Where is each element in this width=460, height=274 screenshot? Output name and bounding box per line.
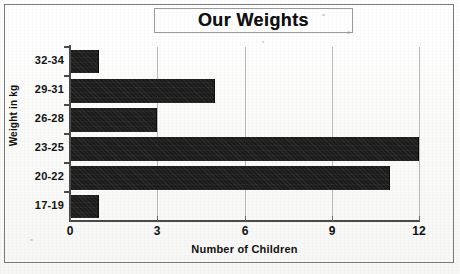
plot-area: [70, 47, 419, 220]
chart-title-box: Our Weights: [154, 8, 353, 33]
chart-title: Our Weights: [198, 10, 309, 31]
y-tick-23-25: [64, 162, 70, 164]
gridline-9: [332, 47, 333, 220]
y-label-26-28: 26-28: [35, 112, 64, 124]
bar-17-19: [70, 195, 99, 218]
bar-23-25: [70, 137, 419, 161]
x-label-12: 12: [412, 224, 425, 238]
y-axis-title: Weight in kg: [8, 71, 19, 161]
x-tick-6: [245, 216, 246, 221]
x-label-3: 3: [154, 224, 161, 238]
y-label-17-19: 17-19: [35, 199, 64, 211]
x-tick-12: [419, 216, 420, 221]
y-label-23-25: 23-25: [35, 141, 64, 153]
bar-32-34: [70, 50, 99, 73]
y-tick-26-28: [64, 133, 70, 135]
chart-figure: Our Weights 32-34 29-31 26-28 23-25 20-2…: [0, 0, 460, 274]
gridline-3: [157, 47, 158, 220]
bar-20-22: [70, 166, 390, 190]
y-tick-32-34: [64, 75, 70, 77]
bar-26-28: [70, 108, 157, 132]
x-tick-3: [157, 216, 158, 221]
x-tick-9: [332, 216, 333, 221]
y-tick-20-22: [64, 191, 70, 193]
y-tick-top: [64, 46, 70, 48]
gridline-12: [419, 47, 420, 220]
y-tick-29-31: [64, 104, 70, 106]
y-axis-tick-labels: 32-34 29-31 26-28 23-25 20-22 17-19: [18, 47, 64, 220]
bar-29-31: [70, 79, 215, 103]
x-axis-title: Number of Children: [70, 243, 419, 255]
y-label-32-34: 32-34: [35, 54, 64, 66]
gridline-6: [245, 47, 246, 220]
x-tick-0: [70, 216, 71, 221]
y-label-20-22: 20-22: [35, 170, 64, 182]
y-label-29-31: 29-31: [35, 83, 64, 95]
x-label-9: 9: [329, 224, 336, 238]
x-label-0: 0: [67, 224, 74, 238]
x-label-6: 6: [242, 224, 249, 238]
